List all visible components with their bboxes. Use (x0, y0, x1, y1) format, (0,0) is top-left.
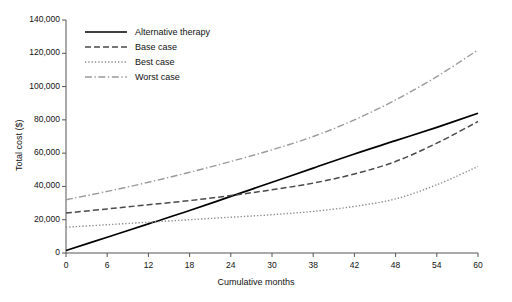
x-tick-label: 0 (46, 260, 86, 270)
y-tick-label: 100,000 (8, 81, 60, 91)
x-tick-label: 12 (128, 260, 168, 270)
series-line-alternative-therapy (66, 113, 478, 250)
y-tick-label: 0 (8, 247, 60, 257)
series-line-best-case (66, 166, 478, 227)
x-tick-label: 24 (211, 260, 251, 270)
x-tick-label: 54 (417, 260, 457, 270)
y-tick-label: 60,000 (8, 147, 60, 157)
legend-swatch-dashed-icon (84, 42, 128, 52)
plot-area (0, 0, 512, 302)
legend-label: Base case (135, 42, 177, 52)
y-tick-label: 80,000 (8, 114, 60, 124)
y-tick-label: 20,000 (8, 214, 60, 224)
legend-item-best-case: Best case (84, 54, 210, 69)
legend-label: Best case (135, 57, 175, 67)
x-tick-label: 6 (87, 260, 127, 270)
x-axis-title: Cumulative months (0, 277, 512, 287)
legend-swatch-dotted-icon (84, 57, 128, 67)
legend-item-worst-case: Worst case (84, 69, 210, 84)
x-tick-label: 38 (293, 260, 333, 270)
series-line-base-case (66, 122, 478, 214)
cost-over-time-line-chart: Total cost ($) Cumulative months Alterna… (0, 0, 512, 302)
x-tick-label: 42 (334, 260, 374, 270)
y-axis-title: Total cost ($) (14, 119, 24, 171)
y-tick-label: 120,000 (8, 47, 60, 57)
legend-item-alternative-therapy: Alternative therapy (84, 24, 210, 39)
x-tick-label: 18 (170, 260, 210, 270)
legend-swatch-solid-icon (84, 27, 128, 37)
legend-item-base-case: Base case (84, 39, 210, 54)
legend-label: Worst case (135, 72, 180, 82)
y-tick-label: 140,000 (8, 14, 60, 24)
x-tick-label: 60 (458, 260, 498, 270)
x-tick-label: 30 (252, 260, 292, 270)
x-tick-label: 48 (376, 260, 416, 270)
y-tick-label: 40,000 (8, 180, 60, 190)
legend-label: Alternative therapy (135, 27, 210, 37)
chart-legend: Alternative therapy Base case Best case … (84, 24, 210, 84)
legend-swatch-dashdot-icon (84, 72, 128, 82)
